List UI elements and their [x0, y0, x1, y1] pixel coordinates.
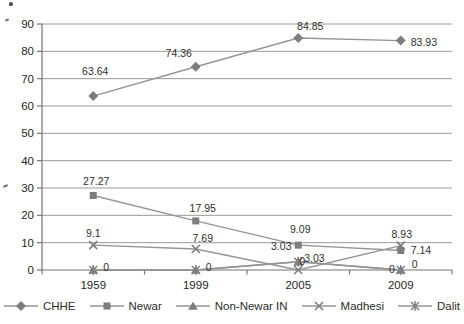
data-label: 0 — [206, 261, 212, 273]
chart-plot-area: 0102030405060708090195919992005200963.64… — [0, 0, 464, 295]
diamond-marker-icon — [191, 62, 201, 72]
data-label: 7.14 — [411, 244, 432, 256]
chart-legend: CHHENewarNon-Newar INMadhesiDalit — [0, 295, 464, 317]
diamond-marker-icon — [16, 301, 26, 311]
y-axis-label: 20 — [21, 209, 34, 221]
data-label: 17.95 — [190, 202, 216, 214]
legend-label: Newar — [129, 300, 162, 312]
data-label: 0 — [103, 261, 109, 273]
data-label: 0 — [412, 258, 418, 270]
y-axis-label: 50 — [21, 127, 34, 139]
y-axis-label: 40 — [21, 155, 34, 167]
x-axis-label: 2005 — [285, 279, 311, 291]
data-label: 84.85 — [297, 20, 323, 32]
x-axis-label: 1959 — [80, 279, 106, 291]
square-marker-icon — [90, 192, 97, 199]
y-axis-label: 70 — [21, 73, 34, 85]
data-label: 3.03 — [271, 240, 292, 252]
data-label: 83.93 — [411, 36, 437, 48]
y-axis-label: 60 — [21, 100, 34, 112]
legend-item-non-newar-in: Non-Newar IN — [176, 300, 288, 312]
data-label: 0 — [389, 263, 395, 275]
x-axis-label: 1999 — [183, 279, 209, 291]
series-line-dalit — [93, 262, 401, 270]
data-label: 3.03 — [304, 252, 325, 264]
square-marker-icon — [192, 217, 199, 224]
data-label: 63.64 — [82, 65, 108, 77]
legend-label: Dalit — [437, 300, 460, 312]
x-axis-label: 2009 — [388, 279, 414, 291]
y-axis-label: 0 — [28, 264, 34, 276]
legend-label: Non-Newar IN — [215, 300, 288, 312]
diamond-marker-icon — [88, 91, 98, 101]
asterisk-marker-icon — [398, 300, 432, 312]
data-label: 8.93 — [392, 228, 413, 240]
diamond-marker-icon — [293, 33, 303, 43]
data-label: 9.1 — [86, 227, 101, 239]
legend-item-madhesi: Madhesi — [302, 300, 384, 312]
series-line-chhe — [93, 38, 401, 96]
data-label: 9.09 — [290, 223, 311, 235]
x-marker-icon — [302, 300, 336, 312]
square-marker-icon — [103, 303, 110, 310]
y-axis-label: 10 — [21, 237, 34, 249]
line-chart-figure: 0102030405060708090195919992005200963.64… — [0, 0, 464, 324]
y-axis-label: 80 — [21, 45, 34, 57]
legend-item-dalit: Dalit — [398, 300, 460, 312]
legend-item-chhe: CHHE — [4, 300, 76, 312]
diamond-marker-icon — [4, 300, 38, 312]
data-label: 7.69 — [193, 232, 214, 244]
legend-label: CHHE — [43, 300, 76, 312]
diamond-marker-icon — [396, 36, 406, 46]
data-label: 27.27 — [83, 175, 109, 187]
square-marker-icon — [90, 300, 124, 312]
square-marker-icon — [295, 242, 302, 249]
legend-item-newar: Newar — [90, 300, 162, 312]
y-axis-label: 30 — [21, 182, 34, 194]
data-label: 74.36 — [166, 47, 192, 59]
y-axis-label: 90 — [21, 18, 34, 30]
legend-label: Madhesi — [341, 300, 384, 312]
triangle-marker-icon — [176, 300, 210, 312]
